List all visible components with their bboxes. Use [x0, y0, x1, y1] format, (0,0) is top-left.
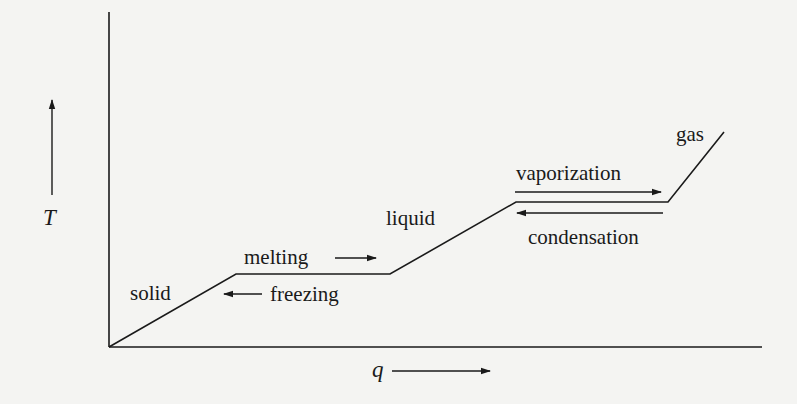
phase-label-liquid: liquid [386, 208, 435, 229]
heating-curve-diagram: T q solid melting freezing liquid vapori… [0, 0, 797, 404]
transition-label-freezing: freezing [270, 284, 339, 305]
diagram-graphics [0, 0, 797, 404]
transition-label-vaporization: vaporization [516, 163, 621, 184]
phase-label-gas: gas [676, 124, 704, 145]
transition-label-condensation: condensation [528, 227, 639, 248]
y-axis-label: T [43, 206, 56, 229]
phase-label-solid: solid [130, 283, 171, 304]
transition-label-melting: melting [244, 247, 308, 268]
x-axis-label: q [372, 358, 384, 381]
